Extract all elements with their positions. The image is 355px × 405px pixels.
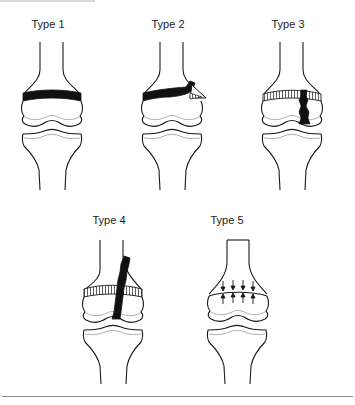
diagram-canvas bbox=[0, 0, 355, 405]
panel-type2 bbox=[142, 42, 206, 190]
panel-type1 bbox=[22, 42, 83, 190]
physis-hatched bbox=[263, 90, 321, 101]
panel-type4 bbox=[83, 240, 144, 384]
panel-type3 bbox=[262, 42, 323, 190]
bottom-divider bbox=[2, 396, 353, 397]
panel-type5 bbox=[207, 240, 268, 384]
physis-fracture-band bbox=[23, 90, 81, 101]
physis-fracture-band bbox=[143, 81, 195, 101]
physis-hatched bbox=[84, 285, 142, 297]
